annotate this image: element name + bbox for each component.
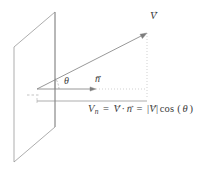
formula-lhs-subscript: n (95, 107, 99, 116)
vector-n-label: n → (95, 74, 100, 84)
formula-cos: cos (158, 103, 176, 114)
formula-vector-n: n (127, 103, 132, 114)
figure-canvas (0, 0, 209, 175)
vector-projection-figure: V → n → θ Vn = V → · n → = | V → |cos(θ) (0, 0, 209, 175)
formula-vector-V: V (113, 103, 120, 114)
formula-equals-first: = (101, 103, 110, 114)
projection-formula: Vn = V → · n → = | V → |cos(θ) (88, 104, 195, 115)
vector-n-symbol: n (95, 73, 100, 84)
formula-paren-close: ) (188, 103, 195, 114)
vector-V-symbol: V (150, 9, 157, 21)
vector-V-label: V → (150, 10, 157, 21)
formula-equals-second: = (135, 103, 144, 114)
formula-dot-operator: · (120, 103, 127, 114)
vector-n-arrowhead (90, 87, 96, 91)
vector-V-arrowhead (140, 33, 147, 39)
angle-theta-label: θ (64, 76, 69, 86)
formula-lhs-symbol: V (88, 103, 95, 114)
formula-paren-open: ( (176, 103, 183, 114)
vector-V-shaft (37, 34, 145, 89)
plane-parallelogram (14, 12, 55, 162)
formula-abs-vector-V: V (149, 103, 156, 114)
